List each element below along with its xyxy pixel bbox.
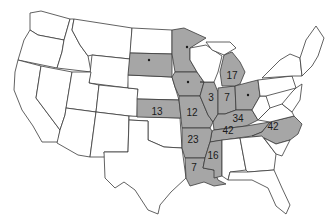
- state-colorado: [96, 85, 138, 117]
- label-kentucky: 34: [232, 113, 244, 124]
- label-michigan: 17: [226, 70, 238, 81]
- us-map: 13 12 3 7 17 34 42 42 23 16 7: [0, 0, 332, 222]
- marker-dot-iowa: [187, 81, 189, 83]
- label-north-carolina: 42: [267, 121, 279, 132]
- state-new-mexico: [90, 112, 129, 157]
- label-arkansas: 23: [187, 134, 199, 145]
- state-wyoming: [89, 55, 130, 88]
- marker-dot-south-dakota: [148, 59, 150, 61]
- state-florida: [228, 170, 290, 214]
- state-north-dakota: [130, 28, 172, 54]
- label-kansas: 13: [151, 106, 163, 117]
- state-new-england: [300, 26, 324, 76]
- label-missouri: 12: [186, 107, 198, 118]
- label-louisiana: 7: [191, 162, 197, 173]
- label-indiana: 7: [224, 92, 230, 103]
- label-tennessee: 42: [222, 125, 234, 136]
- state-new-york: [262, 54, 302, 78]
- marker-dot-minnesota: [186, 46, 188, 48]
- state-south-dakota: [128, 53, 172, 77]
- label-mississippi: 16: [207, 150, 219, 161]
- label-illinois: 3: [208, 92, 214, 103]
- state-pennsylvania: [258, 76, 296, 96]
- marker-dot-ohio: [247, 94, 249, 96]
